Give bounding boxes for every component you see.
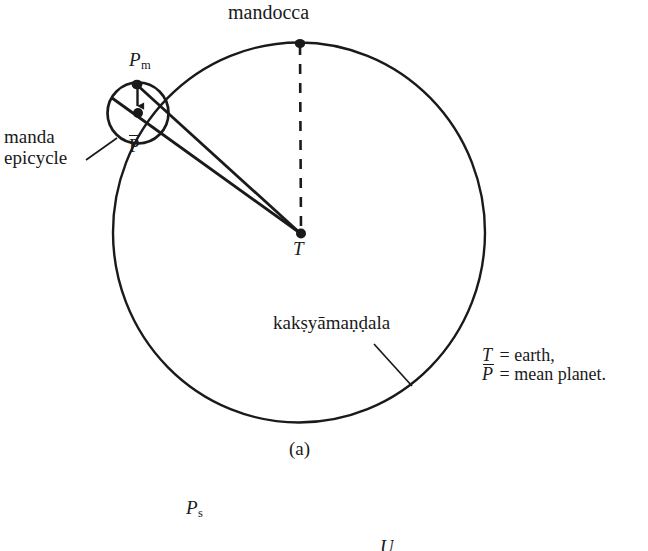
true-planet-label: Pm	[129, 50, 151, 72]
legend-symbol-pbar: P	[482, 365, 495, 384]
mandocca-earth-dashed-line	[300, 45, 301, 232]
next-figure-ps-subscript: s	[198, 506, 203, 520]
next-figure-u-label: U	[380, 537, 394, 551]
earth-label: T	[293, 239, 304, 260]
next-figure-ps-label: Ps	[186, 498, 203, 520]
earth-point-marker	[296, 229, 306, 239]
earth-to-mean-planet-line	[112, 98, 300, 233]
manda-epicycle-label-line1: manda	[4, 127, 67, 148]
mandocca-point-marker	[295, 39, 305, 48]
diagram-canvas	[0, 0, 648, 551]
legend-text-mean-planet: = mean planet.	[500, 364, 607, 384]
legend-row-mean-planet: P = mean planet.	[482, 365, 606, 384]
legend-text-earth: = earth,	[500, 345, 555, 365]
true-planet-label-base: P	[129, 49, 141, 70]
figure-caption: (a)	[289, 439, 310, 460]
mean-planet-point-marker	[133, 108, 143, 118]
legend-symbol-t: T	[482, 346, 495, 365]
legend-row-earth: T = earth,	[482, 346, 606, 365]
kaksyamandala-label: kakṣyāmaṇḍala	[273, 313, 390, 334]
kaksyamandala-leader-line	[374, 344, 412, 386]
mean-planet-label: P	[129, 136, 140, 157]
true-planet-label-subscript: m	[141, 58, 151, 72]
earth-to-true-planet-line	[136, 84, 300, 233]
legend: T = earth, P = mean planet.	[482, 346, 606, 385]
manda-epicycle-leader-line	[86, 138, 117, 160]
next-figure-ps-base: P	[186, 497, 198, 518]
manda-epicycle-label-line2: epicycle	[4, 148, 67, 169]
manda-epicycle-diagram: mandocca Pm P mandaepicycle T kakṣyāmaṇḍ…	[0, 0, 648, 551]
manda-epicycle-label: mandaepicycle	[4, 127, 67, 168]
true-planet-point-marker	[132, 80, 143, 90]
mean-planet-label-base: P	[129, 136, 140, 157]
mandocca-label: mandocca	[228, 2, 309, 24]
